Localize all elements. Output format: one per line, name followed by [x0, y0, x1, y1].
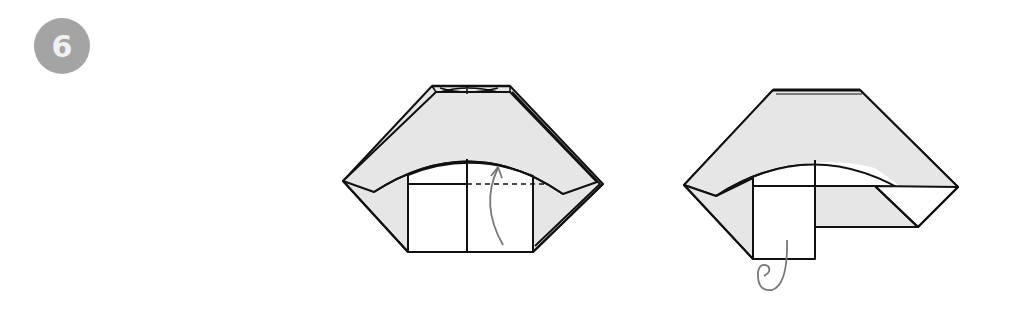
white-square — [753, 186, 815, 259]
figure-before — [343, 86, 603, 252]
figure-after — [684, 90, 958, 290]
origami-step-diagram — [0, 0, 1014, 318]
white-square-area — [408, 163, 533, 252]
